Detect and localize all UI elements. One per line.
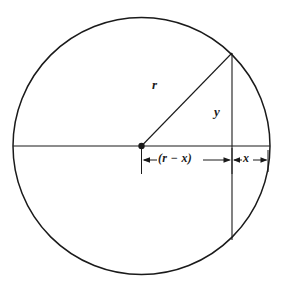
radius-label: r <box>152 78 157 91</box>
left-segment-label: (r − x) <box>158 152 192 164</box>
dimension-left-arrowhead-start <box>143 157 151 162</box>
dimension-right-group <box>233 157 268 162</box>
dimension-right-arrowhead-start <box>233 157 240 162</box>
dimension-right-arrowhead-end <box>261 157 268 162</box>
right-segment-label: x <box>243 152 249 164</box>
radius-line <box>142 53 233 146</box>
geometry-figure: r y (r − x) x <box>0 0 288 282</box>
geometry-canvas <box>0 0 288 282</box>
dimension-left-arrowhead-end <box>224 157 232 162</box>
half-chord-label: y <box>214 105 220 118</box>
